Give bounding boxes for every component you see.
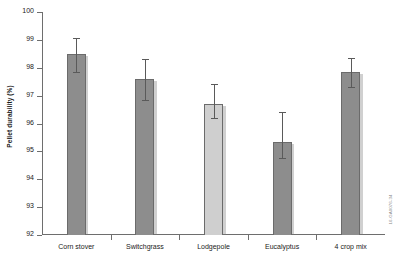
x-axis-category-label: Corn stover <box>58 243 94 250</box>
y-axis-tick: 97 <box>37 96 42 97</box>
error-bar-cap <box>348 58 355 59</box>
y-axis-tick: 98 <box>37 68 42 69</box>
error-bar-cap <box>279 112 286 113</box>
error-bar-line <box>214 84 215 117</box>
bar <box>341 72 360 235</box>
y-axis-tick: 96 <box>37 124 42 125</box>
y-axis-tick: 95 <box>37 151 42 152</box>
x-axis-tick <box>248 235 249 240</box>
error-bar-cap <box>73 38 80 39</box>
x-axis-tick <box>179 235 180 240</box>
x-axis-category-label: Lodgepole <box>197 243 230 250</box>
x-axis-tick <box>316 235 317 240</box>
error-bar-cap <box>142 59 149 60</box>
error-bar-cap <box>73 72 80 73</box>
y-axis-tick: 92 <box>37 235 42 236</box>
error-bar-line <box>145 59 146 99</box>
y-axis-tick-label: 99 <box>26 35 34 42</box>
error-bar-cap <box>211 84 218 85</box>
y-axis-tick-label: 96 <box>26 119 34 126</box>
y-axis-label: Pellet durability (%) <box>2 0 16 232</box>
x-axis-category-label: Switchgrass <box>126 243 164 250</box>
y-axis-tick-label: 97 <box>26 91 34 98</box>
y-axis-tick-label: 94 <box>26 174 34 181</box>
error-bar-cap <box>348 87 355 88</box>
error-bar-line <box>76 38 77 71</box>
y-axis-tick: 93 <box>37 207 42 208</box>
y-axis-tick: 100 <box>37 12 42 13</box>
error-bar-cap <box>279 158 286 159</box>
plot-area: 9293949596979899100 <box>42 12 385 235</box>
y-axis-tick: 99 <box>37 40 42 41</box>
figure-id-code: 16-GA0076-34 <box>385 181 394 237</box>
error-bar-line <box>351 58 352 87</box>
y-axis-tick-label: 92 <box>26 230 34 237</box>
y-axis-tick-label: 93 <box>26 202 34 209</box>
y-axis-tick-label: 95 <box>26 146 34 153</box>
x-axis-category-label: Eucalyptus <box>265 243 299 250</box>
error-bar-line <box>282 112 283 158</box>
x-axis-category-label: 4 crop mix <box>335 243 367 250</box>
error-bar-cap <box>142 100 149 101</box>
error-bar-cap <box>211 118 218 119</box>
x-axis-tick <box>111 235 112 240</box>
y-axis-tick-label: 100 <box>22 7 34 14</box>
figure-id-code-text: 16-GA0076-34 <box>387 194 392 224</box>
y-axis-tick-label: 98 <box>26 63 34 70</box>
bar <box>204 104 223 235</box>
bar-chart-figure: Pellet durability (%) 929394959697989910… <box>0 0 397 267</box>
bar <box>67 54 86 235</box>
y-axis-tick: 94 <box>37 179 42 180</box>
bar <box>135 79 154 235</box>
y-axis-label-text: Pellet durability (%) <box>6 85 13 147</box>
y-axis-line <box>42 12 43 235</box>
